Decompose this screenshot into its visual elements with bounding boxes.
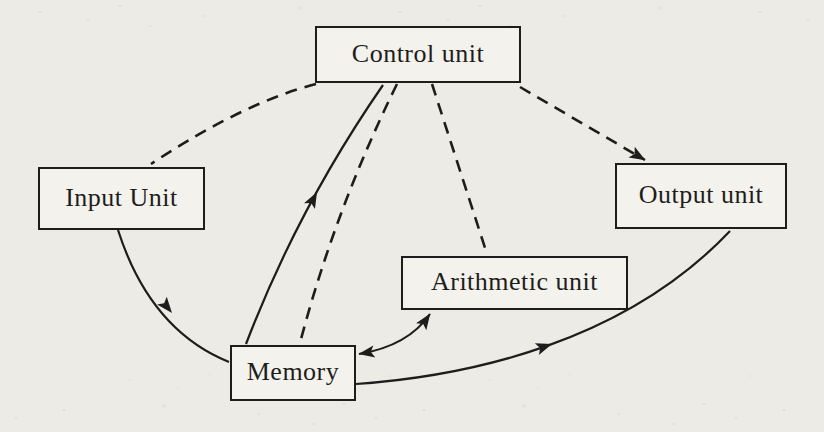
edge-control-to-arithmetic <box>432 84 487 254</box>
arrowhead-memory-to-output <box>535 338 554 355</box>
computer-organization-diagram: Control unit Input Unit Output unit Arit… <box>0 0 824 432</box>
node-output-unit: Output unit <box>615 163 787 229</box>
edge-control-to-output <box>520 87 645 160</box>
node-memory-label: Memory <box>247 357 340 387</box>
node-arithmetic-unit: Arithmetic unit <box>401 256 628 310</box>
edge-input-to-memory <box>118 230 229 362</box>
node-arithmetic-unit-label: Arithmetic unit <box>431 267 598 297</box>
edge-control-to-memory <box>300 84 397 343</box>
node-input-unit-label: Input Unit <box>65 183 178 213</box>
node-control-unit: Control unit <box>315 26 521 83</box>
node-control-unit-label: Control unit <box>352 39 484 69</box>
edge-memory-arithmetic-bidirectional <box>359 314 430 354</box>
node-input-unit: Input Unit <box>38 167 205 230</box>
node-output-unit-label: Output unit <box>639 180 764 210</box>
arrowhead-memory-to-control <box>304 189 322 209</box>
arrowhead-input-to-memory <box>157 297 177 317</box>
edge-control-to-input <box>151 84 316 164</box>
edge-memory-to-control <box>246 85 383 344</box>
node-memory: Memory <box>230 345 356 401</box>
